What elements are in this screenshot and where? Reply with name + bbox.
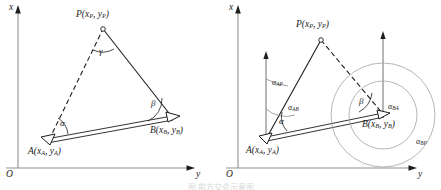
bearing-label-alpha-BA-sub: BA: [392, 105, 398, 111]
bearing-label-alpha-AB-sub: AB: [292, 106, 298, 112]
north-arrow-B: [380, 31, 385, 116]
point-label-B-close: ): [180, 125, 183, 135]
angle-label-beta: β: [359, 97, 363, 106]
station-marker-A: [259, 133, 272, 144]
station-marker-P: [101, 27, 106, 32]
origin-label: O: [226, 170, 233, 180]
point-label-P-mid: , y: [93, 9, 102, 19]
north-arrow-A: [263, 51, 268, 140]
origin-label: O: [6, 170, 13, 180]
figure-caption: 图 前方交会示意图: [0, 181, 441, 190]
bearing-label-alpha-BP: αBP: [416, 138, 427, 146]
point-label-B-mid: , y: [379, 119, 388, 129]
angle-arc-gamma: [93, 49, 114, 52]
angle-label-alpha: α: [60, 119, 65, 128]
station-marker-P: [319, 38, 324, 43]
point-label-A-main: A(x: [246, 145, 259, 155]
diagram-panel-right: x y O P(xP, yP) A(xA, yA) B(xB, yB) αAP …: [220, 0, 441, 190]
point-label-B-close: ): [392, 119, 395, 129]
y-axis-label: y: [196, 170, 200, 180]
angle-label-alpha: α: [279, 117, 284, 126]
point-label-P-main: P(x: [296, 19, 309, 29]
bearing-label-alpha-AB: αAB: [288, 104, 299, 112]
point-label-P-main: P(x: [76, 9, 89, 19]
bearing-label-alpha-BA: αBA: [388, 103, 399, 111]
point-label-B-main: B(x: [150, 125, 163, 135]
point-label-P: P(xP, yP): [296, 20, 329, 30]
y-axis-label: y: [418, 170, 422, 180]
point-label-P: P(xP, yP): [76, 10, 109, 20]
point-label-P-close: ): [326, 19, 329, 29]
point-label-A-mid: , y: [263, 145, 272, 155]
point-label-B-main: B(x: [362, 119, 375, 129]
point-label-A-close: ): [58, 146, 61, 156]
point-label-A: A(xA, yA): [246, 146, 279, 156]
angle-label-beta: β: [151, 99, 155, 108]
left-panel-svg: [0, 0, 220, 190]
point-label-B-mid: , y: [167, 125, 176, 135]
bearing-label-alpha-BP-sub: BP: [420, 140, 426, 146]
angle-label-gamma: γ: [99, 47, 103, 56]
bearing-label-alpha-AP-sub: AP: [276, 81, 282, 87]
point-label-B: B(xB, yB): [150, 126, 183, 136]
bearing-label-alpha-AP: αAP: [272, 79, 283, 87]
point-label-P-mid: , y: [313, 19, 322, 29]
x-axis-label: x: [9, 3, 13, 13]
point-label-A-close: ): [276, 145, 279, 155]
x-axis-label: x: [229, 3, 233, 13]
station-marker-B: [166, 112, 180, 122]
point-label-A: A(xA, yA): [28, 147, 61, 157]
diagram-panel-left: x y O P(xP, yP) A(xA, yA) B(xB, yB) α β …: [0, 0, 220, 190]
point-label-P-close: ): [106, 9, 109, 19]
station-marker-A: [41, 134, 55, 145]
point-label-B: B(xB, yB): [362, 120, 395, 130]
point-label-A-main: A(x: [28, 146, 41, 156]
right-panel-svg: [220, 0, 441, 190]
figure-root: x y O P(xP, yP) A(xA, yA) B(xB, yB) α β …: [0, 0, 441, 190]
point-label-A-mid: , y: [45, 146, 54, 156]
